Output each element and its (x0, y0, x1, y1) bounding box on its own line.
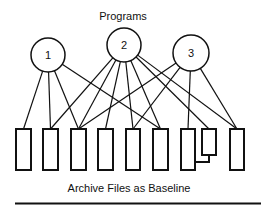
edge-p1-f2 (49, 72, 51, 129)
program-label: 1 (45, 49, 51, 61)
diagram-canvas: Programs 123 Archive Files as Baseline (0, 0, 261, 208)
edge-p2-f4 (106, 62, 121, 129)
archive-file-f3 (71, 129, 86, 170)
archive-file-f6 (153, 129, 168, 170)
edge-p1-f1 (24, 71, 43, 129)
archive-file-f8 (202, 129, 216, 155)
archive-file-f1 (16, 129, 31, 170)
files-group (16, 129, 244, 170)
diagram-title: Programs (99, 10, 147, 22)
diagram-caption: Archive Files as Baseline (68, 182, 191, 194)
edge-p3-f9 (200, 68, 237, 129)
edge-p2-f3 (79, 60, 116, 129)
program-label: 3 (188, 47, 194, 59)
archive-file-f7 (181, 129, 195, 170)
program-label: 2 (121, 39, 127, 51)
edge-p2-f5 (126, 62, 133, 129)
file-link-connector (195, 155, 209, 162)
edge-p3-f7 (188, 71, 190, 129)
archive-file-f5 (126, 129, 140, 170)
archive-file-f2 (43, 129, 58, 170)
edge-p1-f6 (62, 64, 160, 129)
archive-file-f4 (98, 129, 113, 170)
archive-file-f9 (230, 129, 244, 170)
program-file-diagram: Programs 123 Archive Files as Baseline (0, 0, 261, 208)
edge-p2-f2 (51, 58, 113, 129)
